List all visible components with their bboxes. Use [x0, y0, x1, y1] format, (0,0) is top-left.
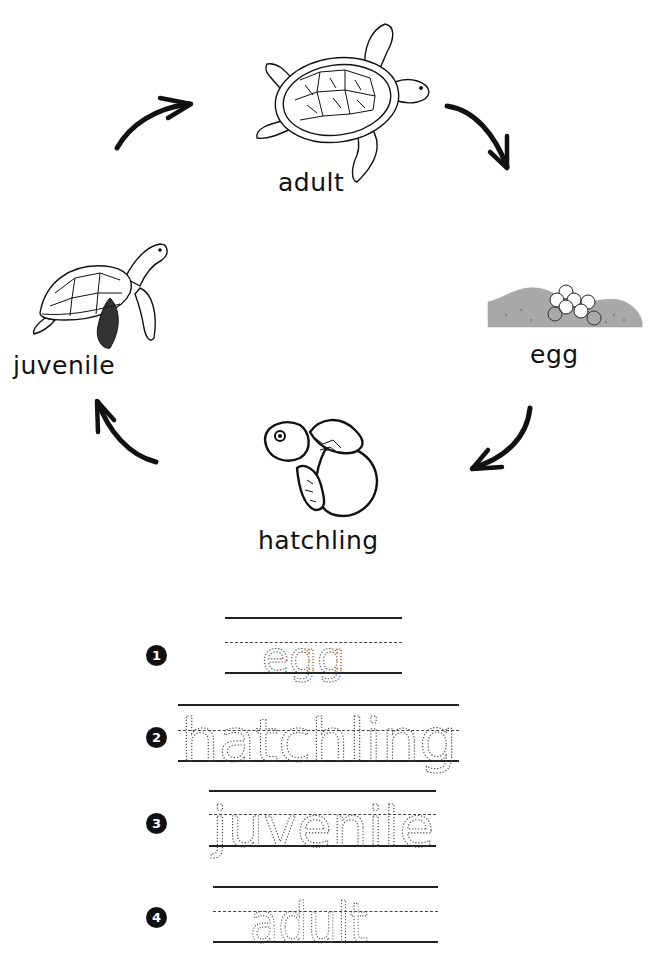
tracing-row-3: juvenile — [209, 790, 436, 848]
stage-label-hatchling: hatchling — [258, 528, 379, 553]
stage-juvenile: juvenile — [10, 238, 180, 388]
trace-word-egg[interactable]: egg — [225, 617, 402, 697]
hatchling-turtle-icon — [255, 410, 385, 520]
adult-turtle-icon — [245, 20, 435, 190]
svg-text:adult: adult — [250, 890, 368, 955]
stage-label-adult: adult — [278, 170, 344, 195]
trace-word-adult[interactable]: adult — [213, 886, 438, 966]
svg-text:hatchling: hatchling — [181, 707, 457, 775]
egg-nest-icon — [486, 280, 646, 330]
stage-adult: adult — [245, 20, 435, 200]
tracing-row-2: hatchling — [178, 704, 459, 762]
tracing-row-4: adult — [213, 886, 438, 944]
stage-label-egg: egg — [530, 342, 579, 367]
tracing-row-1: egg — [225, 617, 402, 675]
trace-word-juvenile[interactable]: juvenile — [209, 790, 436, 870]
row-number-badge-4: 4 — [146, 907, 167, 928]
row-number-badge-2: 2 — [146, 727, 167, 748]
juvenile-turtle-icon — [10, 238, 180, 353]
stage-egg: egg — [486, 280, 646, 370]
trace-word-hatchling[interactable]: hatchling — [178, 704, 459, 784]
svg-text:juvenile: juvenile — [210, 794, 434, 859]
stage-label-juvenile: juvenile — [13, 353, 115, 378]
row-number-badge-1: 1 — [146, 645, 167, 666]
row-number-badge-3: 3 — [146, 813, 167, 834]
svg-text:egg: egg — [262, 632, 345, 683]
stage-hatchling: hatchling — [255, 410, 385, 560]
